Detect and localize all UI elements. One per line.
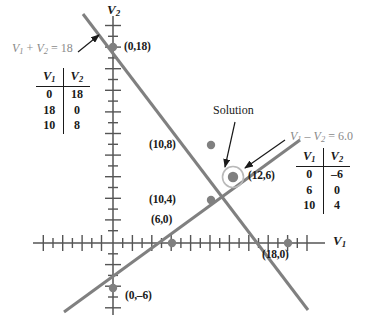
table-header-row: V1 V2 [36, 68, 90, 86]
point-label-6-0: (6,0) [151, 214, 172, 226]
table-header-row: V1 V2 [296, 148, 350, 166]
marker-solution-12-6 [228, 172, 238, 182]
marker-18-0 [284, 239, 292, 247]
line-sum-equation [83, 14, 308, 310]
cell-v1: 10 [296, 198, 323, 214]
difference-equation-table: V1 V2 0 –6 6 0 10 4 [296, 148, 350, 214]
cell-v1: 10 [36, 118, 63, 134]
table-header-v1: V1 [296, 148, 323, 166]
cell-v2: 0 [63, 103, 90, 119]
sum-equation-label: V1 + V2 = 18 [12, 42, 73, 56]
marker-0-neg6 [109, 284, 117, 292]
cell-v2: 4 [323, 198, 350, 214]
difference-equation-label: V1 – V2 = 6.0 [290, 130, 353, 144]
x-axis-label: V1 [333, 234, 346, 249]
cell-v1: 0 [36, 86, 63, 102]
point-label-12-6: (12,6) [248, 170, 275, 182]
cell-v2: –6 [323, 166, 350, 182]
point-label-10-4: (10,4) [149, 194, 176, 206]
marker-10-8 [207, 141, 215, 149]
table-row: 10 4 [296, 198, 350, 214]
sum-equation-table: V1 V2 0 18 18 0 10 8 [36, 68, 90, 134]
table-header-v1: V1 [36, 68, 63, 86]
table-header-v2: V2 [63, 68, 90, 86]
point-label-0-18: (0,18) [124, 41, 151, 53]
cell-v1: 0 [296, 166, 323, 182]
table-row: 18 0 [36, 103, 90, 119]
table-row: 0 18 [36, 86, 90, 102]
cell-v2: 18 [63, 86, 90, 102]
point-label-18-0: (18,0) [262, 249, 289, 261]
graph-figure: V2 V1 V1 + V2 = 18 V1 – V2 = 6.0 Solutio… [0, 0, 366, 329]
table-row: 10 8 [36, 118, 90, 134]
sum-equation-leader-arrow [78, 35, 99, 52]
y-axis-label: V2 [107, 3, 120, 18]
point-label-0-neg6: (0,–6) [125, 290, 152, 302]
cell-v2: 8 [63, 118, 90, 134]
solution-leader-arrow [225, 122, 235, 167]
table-header-v2: V2 [323, 148, 350, 166]
cell-v1: 6 [296, 183, 323, 199]
line-difference-equation [64, 140, 300, 312]
table-row: 0 –6 [296, 166, 350, 182]
marker-10-4 [207, 196, 215, 204]
cell-v2: 0 [323, 183, 350, 199]
point-label-10-8: (10,8) [149, 139, 176, 151]
solution-label: Solution [213, 104, 254, 116]
table-row: 6 0 [296, 183, 350, 199]
marker-6-0 [168, 239, 176, 247]
cell-v1: 18 [36, 103, 63, 119]
marker-0-18 [109, 43, 117, 51]
